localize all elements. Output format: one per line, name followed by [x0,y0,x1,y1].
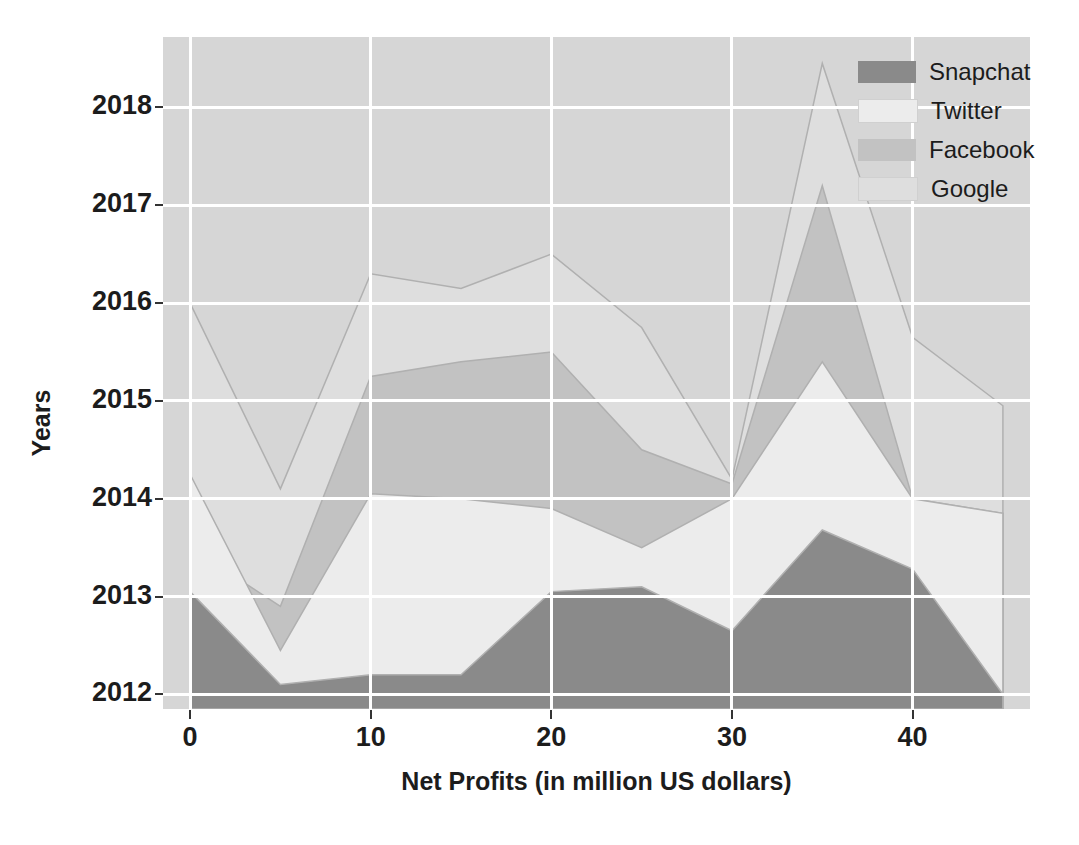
x-axis-title: Net Profits (in million US dollars) [163,767,1030,796]
x-tick-label-30: 30 [717,722,747,753]
x-tick-label-40: 40 [898,722,928,753]
legend-swatch-twitter [858,99,918,123]
y-tick-mark-2015 [155,400,163,402]
chart-figure: Years 2012201320142015201620172018 01020… [0,0,1079,845]
gridline-y-2013 [163,595,1030,598]
y-tick-label-2015: 2015 [0,384,152,415]
legend-label-facebook: Facebook [929,138,1034,162]
legend-item-google[interactable]: Google [858,169,1058,208]
y-tick-mark-2016 [155,302,163,304]
y-tick-label-2016: 2016 [0,286,152,317]
x-tick-mark-0 [189,710,191,719]
legend-label-google: Google [931,177,1008,201]
gridline-y-2014 [163,497,1030,500]
y-tick-label-2017: 2017 [0,188,152,219]
y-tick-label-2018: 2018 [0,90,152,121]
y-tick-mark-2013 [155,596,163,598]
gridline-x-0 [189,37,192,709]
x-tick-label-20: 20 [536,722,566,753]
x-tick-mark-10 [370,710,372,719]
gridline-y-2015 [163,399,1030,402]
gridline-x-10 [369,37,372,709]
gridline-y-2016 [163,302,1030,305]
gridline-y-2012 [163,693,1030,696]
legend-swatch-google [858,177,918,201]
y-tick-mark-2014 [155,498,163,500]
x-tick-label-10: 10 [356,722,386,753]
gridline-x-20 [550,37,553,709]
y-tick-mark-2017 [155,204,163,206]
x-tick-mark-30 [731,710,733,719]
chart-legend: SnapchatTwitterFacebookGoogle [858,52,1058,208]
y-tick-mark-2018 [155,106,163,108]
y-tick-label-2012: 2012 [0,677,152,708]
legend-label-snapchat: Snapchat [929,60,1030,84]
legend-label-twitter: Twitter [931,99,1002,123]
y-tick-label-2013: 2013 [0,580,152,611]
x-tick-mark-40 [912,710,914,719]
legend-item-twitter[interactable]: Twitter [858,91,1058,130]
y-tick-label-2014: 2014 [0,482,152,513]
y-tick-mark-2012 [155,693,163,695]
gridline-x-30 [730,37,733,709]
legend-item-facebook[interactable]: Facebook [858,130,1058,169]
legend-swatch-snapchat [858,61,916,83]
x-tick-mark-20 [550,710,552,719]
x-tick-label-0: 0 [183,722,198,753]
legend-swatch-facebook [858,139,916,161]
legend-item-snapchat[interactable]: Snapchat [858,52,1058,91]
